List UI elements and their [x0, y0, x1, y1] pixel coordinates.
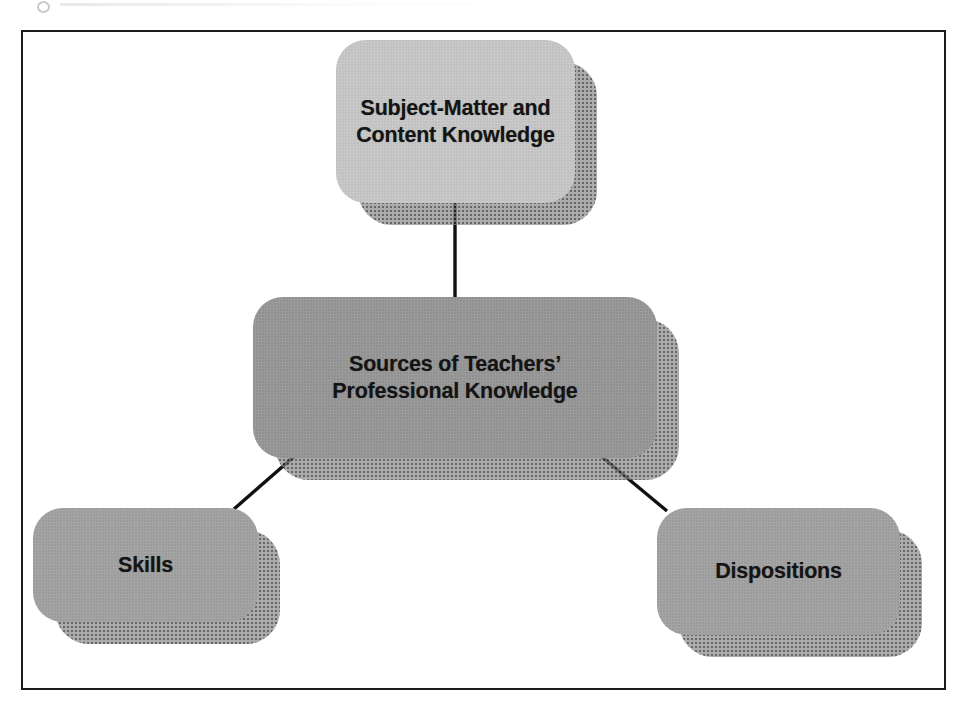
scan-artifact-icon [37, 1, 50, 13]
node-sources-label: Sources of Teachers’ Professional Knowle… [332, 351, 577, 403]
figure-canvas: Subject-Matter and Content Knowledge Sou… [0, 0, 975, 709]
scan-smudge [60, 3, 620, 6]
node-dispositions-label: Dispositions [715, 558, 842, 584]
node-skills-label: Skills [118, 552, 173, 578]
node-subject-matter[interactable]: Subject-Matter and Content Knowledge [336, 40, 575, 203]
node-sources[interactable]: Sources of Teachers’ Professional Knowle… [253, 297, 657, 458]
node-subject-matter-label: Subject-Matter and Content Knowledge [356, 95, 554, 147]
node-skills[interactable]: Skills [33, 508, 258, 622]
node-dispositions[interactable]: Dispositions [657, 508, 900, 635]
